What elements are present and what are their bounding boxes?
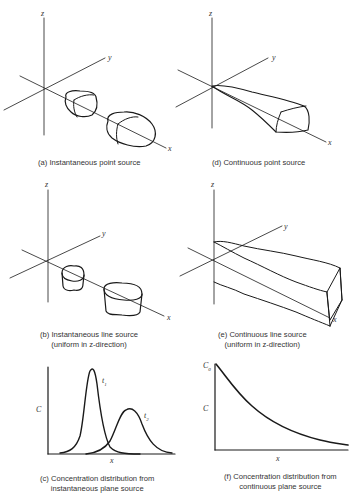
curve-label-t1: t1 (102, 377, 107, 387)
panel-e-z-label: z (211, 181, 214, 189)
panel-f-chart (215, 364, 348, 450)
panel-f-caption-line2: continuous plane source (224, 482, 337, 492)
panel-f-y-label: C (203, 405, 208, 413)
panel-c-caption: (c) Concentration distribution from inst… (40, 474, 154, 494)
panel-c-caption-line1: (c) Concentration distribution from (40, 474, 154, 484)
panel-b-y-label: y (102, 230, 106, 238)
panel-d-caption: (d) Continuous point source (212, 158, 305, 168)
panel-c-caption-line2: instantaneous plane source (40, 484, 154, 494)
panel-b-caption-line2: (uniform in z-direction) (40, 340, 138, 350)
panel-e-caption-line2: (uniform in z-direction) (218, 340, 307, 350)
panel-a-caption: (a) Instantaneous point source (38, 158, 141, 168)
panel-b-x-label: x (167, 314, 171, 322)
panel-b-z-label: z (45, 181, 48, 189)
panel-a-drawing (4, 18, 166, 148)
y-axis (10, 236, 100, 278)
panel-e-caption: (e) Continuous line source (uniform in z… (218, 330, 307, 350)
y-axis (176, 58, 268, 107)
panel-f-x-label: x (276, 455, 280, 463)
cylinder-large (104, 283, 142, 301)
figure-drawings (0, 0, 349, 495)
panel-e-caption-line1: (e) Continuous line source (218, 330, 307, 340)
panel-d-z-label: z (209, 10, 212, 18)
panel-c-chart (48, 367, 175, 454)
panel-d-drawing (176, 18, 326, 142)
panel-a-x-label: x (168, 145, 172, 153)
panel-b-caption-line1: (b) Instantaneous line source (40, 330, 138, 340)
panel-d-y-label: y (272, 54, 276, 62)
curve-label-t2: t2 (144, 412, 149, 422)
panel-e-y-label: y (284, 223, 288, 231)
plume (212, 85, 309, 132)
x-axis (20, 76, 166, 148)
panel-e-drawing (180, 190, 342, 326)
decay-curve (216, 364, 348, 445)
panel-c-y-label: C (36, 406, 41, 414)
panel-a-z-label: z (41, 10, 44, 18)
panel-a-y-label: y (108, 54, 112, 62)
panel-f-c0-label: C0 (203, 362, 211, 372)
x-axis (22, 250, 164, 316)
panel-e-x-label: x (333, 316, 337, 324)
panel-c-x-label: x (110, 457, 114, 465)
curve-t1 (60, 369, 140, 454)
panel-d-x-label: x (328, 139, 332, 147)
panel-b-drawing (10, 190, 164, 316)
panel-b-caption: (b) Instantaneous line source (uniform i… (40, 330, 138, 350)
y-axis (4, 58, 105, 110)
panel-f-caption: (f) Concentration distribution from cont… (224, 472, 337, 492)
panel-f-caption-line1: (f) Concentration distribution from (224, 472, 337, 482)
curve-t2 (86, 409, 172, 454)
